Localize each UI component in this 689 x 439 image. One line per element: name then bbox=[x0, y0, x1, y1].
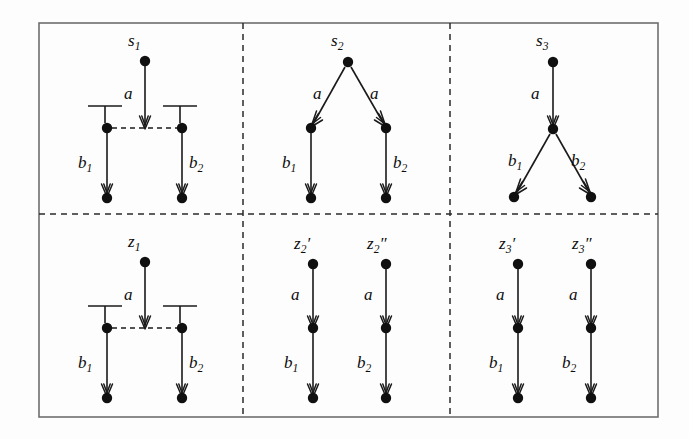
node-s3-right-leaf bbox=[586, 192, 596, 202]
panel-s1: s1 a b1 bbox=[78, 31, 204, 203]
node-z1-right bbox=[177, 323, 187, 333]
node-z1-root bbox=[140, 257, 150, 267]
label-s1: s1 bbox=[128, 31, 140, 52]
node-z3pp-root bbox=[586, 259, 596, 269]
label-s2-b1: b1 bbox=[282, 153, 296, 174]
label-z1-a: a bbox=[124, 285, 133, 304]
node-s1-left-leaf bbox=[102, 193, 112, 203]
node-s2-right bbox=[381, 123, 391, 133]
panel-z2: z2′ a b1 z2″ a b2 bbox=[284, 234, 392, 403]
node-s1-root bbox=[140, 56, 150, 66]
node-z3p-leaf bbox=[513, 393, 523, 403]
label-z1-b1: b1 bbox=[78, 353, 92, 374]
panel-z1: z1 a b1 b2 bbox=[78, 232, 204, 403]
node-z2p-mid bbox=[308, 323, 318, 333]
node-s1-right-leaf bbox=[177, 193, 187, 203]
node-s2-right-leaf bbox=[381, 193, 391, 203]
label-z2p-a: a bbox=[291, 285, 300, 304]
diagram-canvas: s1 a b1 bbox=[0, 0, 689, 439]
node-s3-mid bbox=[548, 124, 558, 134]
label-z3pp-b2: b2 bbox=[562, 353, 577, 374]
label-z2pp-b2: b2 bbox=[357, 353, 372, 374]
label-z3p-b1: b1 bbox=[489, 353, 503, 374]
node-z3p-mid bbox=[513, 323, 523, 333]
node-z3p-root bbox=[513, 259, 523, 269]
label-z2-prime: z2′ bbox=[293, 234, 310, 255]
label-s3: s3 bbox=[536, 31, 549, 52]
label-z3p-a: a bbox=[496, 285, 505, 304]
label-z2p-b1: b1 bbox=[284, 353, 298, 374]
node-s3-root bbox=[548, 57, 558, 67]
node-z2pp-mid bbox=[381, 323, 391, 333]
label-z3-dprime: z3″ bbox=[571, 234, 592, 255]
node-z1-left bbox=[102, 323, 112, 333]
figure-container: s1 a b1 bbox=[0, 0, 689, 439]
label-z1: z1 bbox=[127, 232, 140, 253]
panel-s3: s3 a b1 b2 bbox=[508, 31, 596, 202]
node-s2-left bbox=[306, 123, 316, 133]
panel-z3: z3′ a b1 z3″ a b2 bbox=[489, 234, 597, 403]
node-s2-root bbox=[343, 57, 353, 67]
node-z2p-leaf bbox=[308, 393, 318, 403]
node-z2p-root bbox=[308, 259, 318, 269]
node-z3pp-leaf bbox=[586, 393, 596, 403]
label-s3-a: a bbox=[531, 84, 540, 103]
node-z1-left-leaf bbox=[102, 393, 112, 403]
label-s3-b2: b2 bbox=[571, 151, 586, 172]
label-z2-dprime: z2″ bbox=[366, 234, 387, 255]
node-z2pp-leaf bbox=[381, 393, 391, 403]
node-z2pp-root bbox=[381, 259, 391, 269]
label-s1-b2: b2 bbox=[189, 153, 204, 174]
label-s2-a-left: a bbox=[313, 84, 322, 103]
label-s1-a: a bbox=[124, 84, 133, 103]
label-s2: s2 bbox=[331, 31, 344, 52]
label-s3-b1: b1 bbox=[508, 151, 522, 172]
label-s1-b1: b1 bbox=[78, 153, 92, 174]
panel-s2: s2 a a b1 b2 bbox=[282, 31, 408, 203]
node-s1-left bbox=[102, 123, 112, 133]
label-z3pp-a: a bbox=[569, 285, 578, 304]
node-z3pp-mid bbox=[586, 323, 596, 333]
label-s2-b2: b2 bbox=[393, 153, 408, 174]
node-z1-right-leaf bbox=[177, 393, 187, 403]
label-z3-prime: z3′ bbox=[498, 234, 515, 255]
label-z2pp-a: a bbox=[364, 285, 373, 304]
label-s2-a-right: a bbox=[370, 84, 379, 103]
node-s3-left-leaf bbox=[509, 192, 519, 202]
node-s2-left-leaf bbox=[306, 193, 316, 203]
node-s1-right bbox=[177, 123, 187, 133]
label-z1-b2: b2 bbox=[189, 353, 204, 374]
